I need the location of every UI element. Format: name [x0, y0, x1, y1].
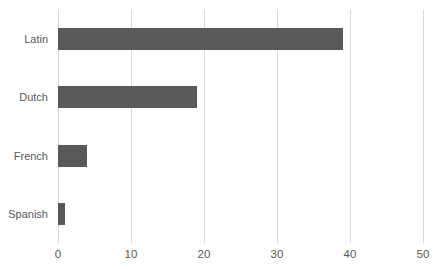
gridline: [423, 10, 424, 243]
bar-chart: LatinDutchFrenchSpanish 01020304050: [0, 0, 433, 269]
category-label-latin: Latin: [24, 33, 48, 45]
x-tick-label-0: 0: [38, 247, 78, 261]
bar: [58, 145, 87, 167]
bar: [58, 86, 197, 108]
bar-band: [58, 10, 423, 68]
category-label-french: French: [14, 150, 48, 162]
x-tick-label-20: 20: [184, 247, 224, 261]
bar-band: [58, 185, 423, 243]
category-label-dutch: Dutch: [19, 91, 48, 103]
x-tick-label-10: 10: [111, 247, 151, 261]
bar: [58, 28, 343, 50]
bar-band: [58, 68, 423, 126]
category-label-spanish: Spanish: [8, 208, 48, 220]
clipped-caption: [47, 264, 262, 269]
x-tick-label-50: 50: [403, 247, 433, 261]
plot-area: [58, 10, 423, 243]
x-tick-label-30: 30: [257, 247, 297, 261]
x-tick-label-40: 40: [330, 247, 370, 261]
bar-band: [58, 127, 423, 185]
bar: [58, 203, 65, 225]
